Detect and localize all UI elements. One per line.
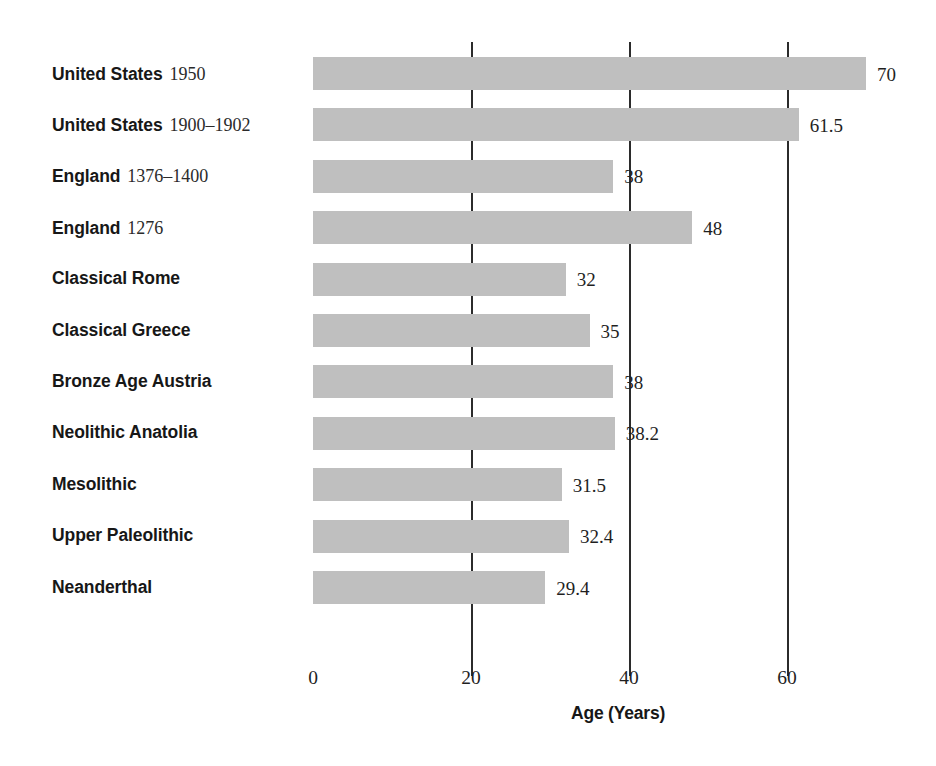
bar [313,314,590,347]
category-period: 1900–1902 [170,115,251,135]
bar [313,417,615,450]
bar-row: Classical Greece35 [0,314,936,347]
x-tick-label-60: 60 [777,668,797,688]
category-period: 1376–1400 [127,166,208,186]
bar [313,520,569,553]
bar-category-label: England1276 [52,218,163,237]
bar-category-label: Upper Paleolithic [52,527,193,545]
bar-category-label: Neanderthal [52,579,152,597]
bar [313,263,566,296]
category-place: United States [52,115,163,135]
category-period: 1276 [127,217,163,237]
bar-row: United States195070 [0,57,936,90]
x-tick-label-0: 0 [308,668,318,688]
bar-row: United States1900–190261.5 [0,108,936,141]
bar-value-label: 70 [877,64,896,83]
bar-row: England127648 [0,211,936,244]
bar-row: Neanderthal29.4 [0,571,936,604]
x-tick-label-20: 20 [461,668,481,688]
bar-value-label: 38 [624,167,643,186]
bar-category-label: Classical Greece [52,322,191,340]
bar-category-label: Bronze Age Austria [52,373,211,391]
bar-value-label: 29.4 [556,578,589,597]
category-place: Neanderthal [52,577,152,597]
bar [313,571,545,604]
bar [313,211,692,244]
bar-row: Neolithic Anatolia38.2 [0,417,936,450]
bar-category-label: United States1900–1902 [52,116,251,135]
x-axis-title-text: Age (Years) [571,703,665,724]
bar-value-label: 32 [577,270,596,289]
bar-row: Mesolithic31.5 [0,468,936,501]
bar [313,57,866,90]
bar-value-label: 48 [703,218,722,237]
bar-row: Bronze Age Austria38 [0,365,936,398]
category-place: England [52,166,120,186]
category-place: Classical Greece [52,320,191,340]
x-axis-title: Age (Years) [0,703,936,724]
bar-value-label: 38 [624,372,643,391]
category-place: England [52,217,120,237]
bar [313,108,799,141]
bar-category-label: Neolithic Anatolia [52,425,197,443]
bar [313,468,562,501]
bar-category-label: United States1950 [52,64,206,83]
bar-value-label: 38.2 [626,424,659,443]
bar-category-label: Mesolithic [52,476,137,494]
bar-value-label: 35 [601,321,620,340]
x-tick-label-40: 40 [619,668,639,688]
category-place: United States [52,63,163,83]
bar [313,365,613,398]
bar-chart: United States195070United States1900–190… [0,0,936,766]
bar-category-label: Classical Rome [52,270,180,288]
bar [313,160,613,193]
bar-value-label: 32.4 [580,527,613,546]
category-place: Mesolithic [52,474,137,494]
category-place: Neolithic Anatolia [52,423,197,443]
bar-value-label: 31.5 [573,475,606,494]
category-place: Bronze Age Austria [52,371,211,391]
category-place: Upper Paleolithic [52,525,193,545]
bar-row: Upper Paleolithic32.4 [0,520,936,553]
category-place: Classical Rome [52,268,180,288]
bar-row: Classical Rome32 [0,263,936,296]
category-period: 1950 [170,63,206,83]
bar-row: England1376–140038 [0,160,936,193]
bar-category-label: England1376–1400 [52,167,208,186]
bar-value-label: 61.5 [810,115,843,134]
